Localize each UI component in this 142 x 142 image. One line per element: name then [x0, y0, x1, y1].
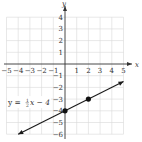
x-axis-arrow-icon	[127, 62, 132, 66]
x-tick-label: 1	[74, 67, 78, 75]
x-tick-label: −5	[1, 67, 11, 75]
y-tick-label: −6	[53, 131, 64, 139]
data-point	[62, 108, 67, 113]
x-axis-label: x	[135, 61, 139, 69]
graph-svg: xy −5−4−3−2−1123454321−1−2−3−4−5−6 y = 1…	[0, 0, 142, 142]
tick-labels: −5−4−3−2−1123454321−1−2−3−4−5−6	[1, 14, 125, 139]
y-tick-label: 3	[59, 25, 63, 33]
y-tick-label: 4	[59, 14, 64, 22]
y-tick-label: 2	[59, 37, 63, 45]
x-tick-label: −3	[25, 67, 35, 75]
x-tick-label: 2	[86, 67, 90, 75]
y-tick-label: −1	[53, 72, 63, 80]
data-point	[86, 97, 91, 102]
equation-suffix: x − 4	[30, 98, 50, 107]
y-axis-label: y	[61, 0, 67, 8]
x-tick-label: 5	[121, 67, 125, 75]
equation-denominator: 2	[26, 103, 29, 108]
x-tick-label: −4	[13, 67, 24, 75]
y-tick-label: −3	[53, 96, 63, 104]
coordinate-plane: xy −5−4−3−2−1123454321−1−2−3−4−5−6 y = 1…	[0, 0, 142, 142]
equation-label: y = 12x − 4	[7, 96, 51, 108]
equation-numerator: 1	[26, 98, 29, 103]
x-tick-label: 3	[98, 67, 102, 75]
x-tick-label: 4	[110, 67, 115, 75]
y-tick-label: 1	[59, 49, 63, 57]
x-tick-label: −2	[36, 67, 46, 75]
y-tick-label: −5	[53, 119, 63, 127]
y-tick-label: −2	[53, 84, 63, 92]
equation-prefix: y =	[7, 98, 21, 107]
